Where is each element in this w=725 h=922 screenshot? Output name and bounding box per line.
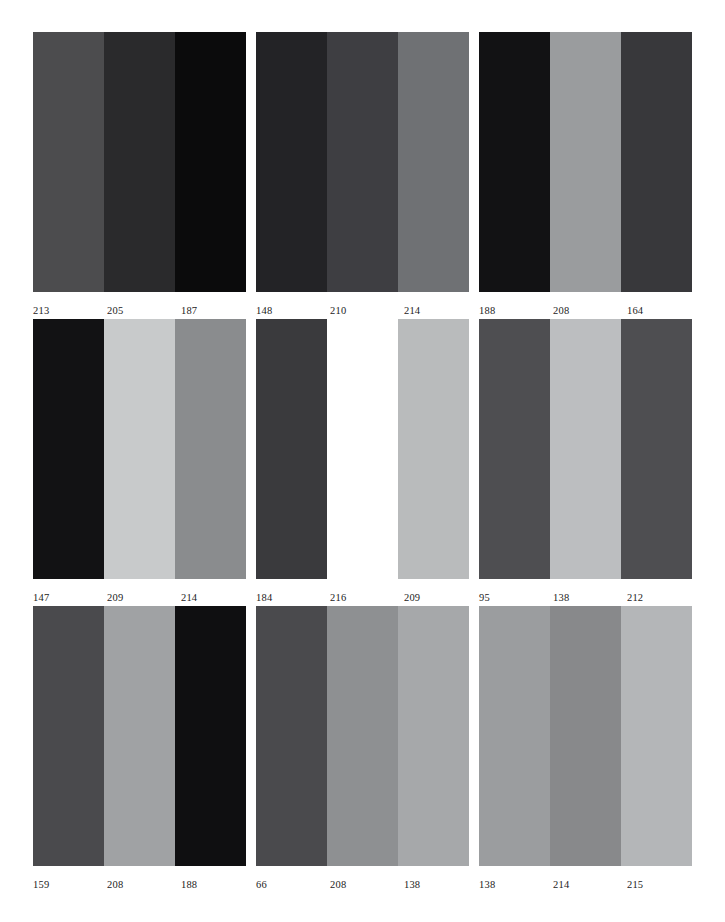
grid-gutter — [469, 606, 479, 893]
swatch-band-1 — [479, 319, 550, 579]
swatch-label: 188 — [175, 870, 246, 890]
swatch-label: 216 — [327, 583, 398, 603]
swatch-band-2 — [550, 319, 621, 579]
swatch-band-1 — [256, 606, 327, 866]
swatch-band-3 — [175, 32, 246, 292]
swatch-captions: 66 208 138 — [256, 866, 469, 893]
swatch-band-1 — [479, 606, 550, 866]
swatch-label: 210 — [327, 296, 398, 316]
swatch-strip — [479, 319, 692, 579]
swatch-band-3 — [175, 606, 246, 866]
swatch-band-2 — [327, 32, 398, 292]
swatch-band-3 — [175, 319, 246, 579]
swatch-label: 159 — [33, 870, 104, 890]
swatch-panel[interactable]: 66 208 138 — [256, 606, 469, 893]
swatch-label: 164 — [621, 296, 692, 316]
swatch-band-1 — [33, 606, 104, 866]
swatch-label: 188 — [479, 296, 550, 316]
swatch-captions: 138 214 215 — [479, 866, 692, 893]
swatch-panel[interactable]: 147 209 214 — [33, 319, 246, 606]
swatch-label: 215 — [621, 870, 692, 890]
swatch-band-3 — [398, 606, 469, 866]
swatch-captions: 213 205 187 — [33, 292, 246, 319]
swatch-strip — [256, 319, 469, 579]
swatch-band-3 — [621, 319, 692, 579]
swatch-label: 148 — [256, 296, 327, 316]
swatch-label: 214 — [175, 583, 246, 603]
grid-gutter — [246, 319, 256, 606]
grid-gutter — [469, 319, 479, 606]
swatch-label: 214 — [398, 296, 469, 316]
swatch-panel[interactable]: 148 210 214 — [256, 32, 469, 319]
swatch-label: 209 — [104, 583, 175, 603]
swatch-strip — [479, 32, 692, 292]
swatch-band-3 — [398, 319, 469, 579]
swatch-label: 209 — [398, 583, 469, 603]
swatch-band-1 — [256, 319, 327, 579]
swatch-label: 138 — [479, 870, 550, 890]
swatch-panel[interactable]: 95 138 212 — [479, 319, 692, 606]
swatch-label: 208 — [327, 870, 398, 890]
swatch-captions: 148 210 214 — [256, 292, 469, 319]
swatch-strip — [33, 32, 246, 292]
swatch-band-1 — [479, 32, 550, 292]
swatch-band-2 — [327, 319, 398, 579]
swatch-captions: 184 216 209 — [256, 579, 469, 606]
swatch-label: 205 — [104, 296, 175, 316]
grid-gutter — [469, 32, 479, 319]
swatch-band-1 — [256, 32, 327, 292]
swatch-panel[interactable]: 138 214 215 — [479, 606, 692, 893]
swatch-label: 138 — [550, 583, 621, 603]
swatch-strip — [33, 606, 246, 866]
swatch-captions: 188 208 164 — [479, 292, 692, 319]
swatch-label: 212 — [621, 583, 692, 603]
swatch-label: 138 — [398, 870, 469, 890]
swatch-label: 213 — [33, 296, 104, 316]
swatch-band-2 — [104, 319, 175, 579]
grid-gutter — [246, 32, 256, 319]
swatch-plate: 213 205 187 148 210 214 — [0, 0, 725, 922]
swatch-band-2 — [327, 606, 398, 866]
swatch-band-2 — [550, 606, 621, 866]
swatch-strip — [256, 606, 469, 866]
swatch-label: 147 — [33, 583, 104, 603]
swatch-band-3 — [621, 32, 692, 292]
swatch-label: 184 — [256, 583, 327, 603]
swatch-panel[interactable]: 188 208 164 — [479, 32, 692, 319]
swatch-label: 66 — [256, 870, 327, 890]
swatch-band-2 — [550, 32, 621, 292]
swatch-strip — [479, 606, 692, 866]
grid-gutter — [246, 606, 256, 893]
swatch-band-1 — [33, 32, 104, 292]
swatch-band-2 — [104, 32, 175, 292]
swatch-band-1 — [33, 319, 104, 579]
swatch-strip — [256, 32, 469, 292]
swatch-captions: 159 208 188 — [33, 866, 246, 893]
swatch-band-2 — [104, 606, 175, 866]
swatch-label: 208 — [104, 870, 175, 890]
swatch-panel[interactable]: 159 208 188 — [33, 606, 246, 893]
swatch-strip — [33, 319, 246, 579]
swatch-panel[interactable]: 213 205 187 — [33, 32, 246, 319]
swatch-label: 214 — [550, 870, 621, 890]
swatch-panel[interactable]: 184 216 209 — [256, 319, 469, 606]
swatch-captions: 147 209 214 — [33, 579, 246, 606]
swatch-captions: 95 138 212 — [479, 579, 692, 606]
swatch-grid: 213 205 187 148 210 214 — [33, 32, 692, 889]
swatch-label: 187 — [175, 296, 246, 316]
swatch-band-3 — [398, 32, 469, 292]
swatch-label: 208 — [550, 296, 621, 316]
swatch-label: 95 — [479, 583, 550, 603]
swatch-band-3 — [621, 606, 692, 866]
